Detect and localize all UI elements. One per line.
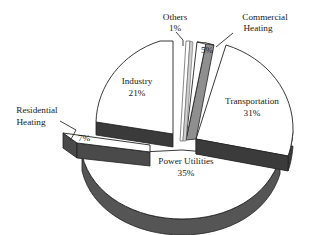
label-industry-name: Industry: [122, 76, 153, 86]
label-industry-value: 21%: [129, 88, 146, 98]
leader-line-commercial-heating: [216, 33, 233, 47]
label-others-name: Others: [163, 12, 188, 22]
label-transportation-value: 31%: [244, 108, 261, 118]
label-commercial-heating-name-line1: Commercial: [242, 12, 288, 22]
pie-chart-svg: Others 1% Commercial Heating 5% Industry…: [0, 0, 324, 235]
label-residential-heating-value: 7%: [78, 133, 91, 143]
label-power-utilities-value: 35%: [178, 168, 195, 178]
label-residential-heating-name-line2: Heating: [16, 117, 45, 127]
pie-chart-figure: Others 1% Commercial Heating 5% Industry…: [0, 0, 324, 235]
label-power-utilities-name: Power Utilities: [158, 156, 214, 166]
label-commercial-heating-value: 5%: [201, 45, 214, 55]
leader-line-others: [176, 32, 183, 46]
label-residential-heating-name-line1: Residential: [16, 105, 58, 115]
label-others-value: 1%: [169, 23, 182, 33]
label-transportation-name: Transportation: [225, 96, 279, 106]
label-commercial-heating-name-line2: Heating: [243, 23, 272, 33]
